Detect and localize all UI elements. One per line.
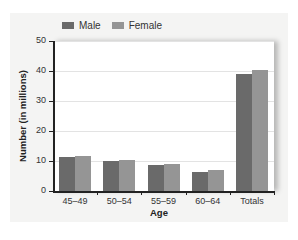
legend-label-female: Female xyxy=(129,20,162,31)
y-tick xyxy=(49,101,54,102)
y-tick-label: 10 xyxy=(26,155,46,165)
x-tick xyxy=(230,191,231,195)
bar-male xyxy=(236,74,252,191)
legend: Male Female xyxy=(62,20,173,31)
y-tick xyxy=(49,161,54,162)
legend-swatch-female xyxy=(112,22,124,29)
x-tick xyxy=(186,191,187,195)
bar-female xyxy=(252,70,268,192)
y-tick xyxy=(49,71,54,72)
plot-area xyxy=(53,41,274,191)
legend-label-male: Male xyxy=(79,20,101,31)
x-tick-label: 45–49 xyxy=(53,196,97,206)
bar-male xyxy=(148,165,164,191)
y-tick-label: 30 xyxy=(26,95,46,105)
gridline xyxy=(53,71,274,72)
legend-item-male: Male xyxy=(62,20,101,31)
y-tick xyxy=(49,191,54,192)
y-axis-title: Number (in millions) xyxy=(17,70,28,162)
y-axis-line xyxy=(53,41,55,192)
bar-male xyxy=(103,161,119,191)
x-tick-label: 60–64 xyxy=(186,196,230,206)
legend-swatch-male xyxy=(62,22,74,29)
x-axis-line xyxy=(53,191,275,193)
legend-item-female: Female xyxy=(112,20,162,31)
y-tick-label: 50 xyxy=(26,35,46,45)
bar-female xyxy=(208,170,224,191)
bar-male xyxy=(192,172,208,191)
y-tick-label: 40 xyxy=(26,65,46,75)
x-tick-label: Totals xyxy=(230,196,274,206)
x-axis-title: Age xyxy=(150,207,168,218)
bar-female xyxy=(119,160,135,192)
gridline xyxy=(53,41,274,42)
x-tick-label: 55–59 xyxy=(142,196,186,206)
bar-female xyxy=(164,164,180,191)
y-tick-label: 20 xyxy=(26,125,46,135)
x-tick xyxy=(97,191,98,195)
y-tick xyxy=(49,131,54,132)
y-tick xyxy=(49,41,54,42)
bar-male xyxy=(59,157,75,192)
x-tick xyxy=(141,191,142,195)
x-tick xyxy=(274,191,275,195)
y-tick-label: 0 xyxy=(26,185,46,195)
x-tick-label: 50–54 xyxy=(97,196,141,206)
bar-female xyxy=(75,156,91,191)
